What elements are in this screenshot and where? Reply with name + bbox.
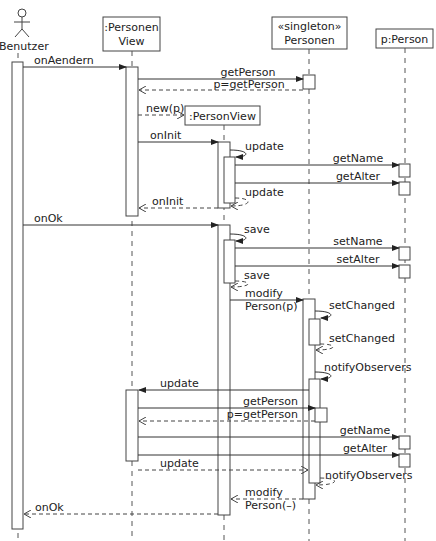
svg-text:setChanged: setChanged	[329, 299, 395, 312]
activation-person-1	[399, 164, 410, 177]
participant-stereotype: «singleton»	[277, 20, 341, 33]
actor-stick-figure-icon	[14, 9, 30, 37]
activation-personen-1	[303, 75, 315, 89]
message-getname-1: getName	[235, 152, 399, 165]
participant-personview: :PersonView	[185, 106, 260, 125]
message-modifyperson-return: modify Person(–)	[231, 486, 303, 512]
activation-personview-2-nested	[224, 240, 235, 283]
svg-text:notifyObservers: notifyObservers	[324, 361, 412, 374]
participant-label-line2: View	[118, 35, 144, 48]
message-modifyperson: modify Person(p)	[230, 287, 303, 313]
svg-text:getName: getName	[333, 152, 384, 165]
activation-personen-2-nested-a	[309, 319, 320, 345]
message-new-p: new(p)	[138, 102, 184, 115]
message-p-getperson-1-return: p=getPerson	[139, 78, 303, 91]
svg-text:update: update	[245, 140, 284, 153]
message-onok: onOk	[23, 212, 218, 225]
message-onaendern: onAendern	[23, 54, 126, 67]
activation-benutzer	[12, 62, 23, 529]
svg-text:setName: setName	[333, 235, 382, 248]
svg-text:onInit: onInit	[150, 129, 182, 142]
activation-personenview-2	[126, 390, 138, 461]
message-update-self: update	[230, 140, 284, 157]
participant-label-line1: :Personen	[104, 21, 158, 34]
activation-person-6	[399, 454, 410, 467]
message-getalter-1: getAlter	[235, 170, 399, 183]
svg-text:modify: modify	[245, 287, 283, 300]
activation-person-4	[399, 265, 410, 278]
message-setchanged-self-return: setChanged	[316, 332, 395, 350]
activation-personview-1-nested	[224, 157, 235, 203]
message-p-getperson-2-return: p=getPerson	[139, 408, 315, 421]
message-getalter-2: getAlter	[138, 442, 399, 455]
svg-text:save: save	[244, 223, 270, 236]
svg-text:setChanged: setChanged	[329, 332, 395, 345]
svg-text:getAlter: getAlter	[343, 442, 388, 455]
svg-text:onOk: onOk	[35, 501, 64, 514]
message-save-self-return: save	[231, 269, 270, 287]
activation-personen-2-nested-b	[309, 379, 320, 483]
message-update-self-return: update	[231, 186, 284, 206]
sequence-diagram: :Benutzer :Personen View «singleton» Per…	[0, 0, 436, 541]
activation-person-5	[399, 436, 410, 449]
svg-text:update: update	[160, 457, 199, 470]
message-onok-return: onOk	[24, 501, 218, 514]
message-setchanged-self: setChanged	[315, 299, 395, 318]
activation-person-3	[399, 247, 410, 260]
svg-text:getPerson: getPerson	[243, 395, 298, 408]
svg-text:onAendern: onAendern	[34, 54, 94, 67]
svg-text:onInit: onInit	[152, 195, 184, 208]
svg-text:p=getPerson: p=getPerson	[227, 408, 298, 421]
svg-text:notifyObservers: notifyObservers	[325, 469, 413, 482]
participant-label: Personen	[284, 34, 335, 47]
svg-text:update: update	[160, 377, 199, 390]
svg-text:Person(p): Person(p)	[245, 300, 298, 313]
participant-personen: «singleton» Personen	[272, 17, 347, 49]
participant-benutzer: :Benutzer	[0, 9, 49, 53]
message-setalter: setAlter	[235, 253, 399, 266]
activation-personenview-1	[126, 67, 138, 216]
svg-text:update: update	[245, 186, 284, 199]
svg-text:p=getPerson: p=getPerson	[213, 78, 284, 91]
participant-label: p:Person	[381, 33, 429, 46]
activation-person-2	[399, 182, 410, 195]
message-oninit-return: onInit	[139, 195, 218, 208]
svg-text:new(p): new(p)	[146, 102, 184, 115]
message-notifyobservers-self-return: notifyObservers	[316, 469, 413, 485]
message-setname: setName	[235, 235, 399, 248]
svg-text:onOk: onOk	[34, 212, 63, 225]
svg-text:Person(–): Person(–)	[245, 499, 296, 512]
participant-label: :PersonView	[189, 110, 256, 123]
activation-personen-3	[315, 408, 327, 422]
message-oninit: onInit	[138, 129, 218, 142]
participant-personenview: :Personen View	[103, 17, 160, 51]
svg-text:modify: modify	[245, 486, 283, 499]
message-save-self: save	[230, 223, 270, 241]
svg-text:setAlter: setAlter	[337, 253, 380, 266]
participant-label: :Benutzer	[0, 40, 49, 53]
message-notifyobservers-self: notifyObservers	[315, 361, 412, 379]
svg-text:getAlter: getAlter	[336, 170, 381, 183]
participant-person: p:Person	[376, 29, 433, 48]
message-getname-2: getName	[138, 424, 399, 437]
svg-text:save: save	[244, 269, 270, 282]
svg-text:getName: getName	[340, 424, 391, 437]
